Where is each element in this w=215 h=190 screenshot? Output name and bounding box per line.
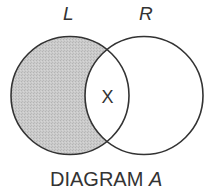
- set-l-label: L: [63, 3, 74, 24]
- caption-main: DIAGRAM: [50, 168, 149, 190]
- venn-diagram: L R X DIAGRAM A: [0, 0, 215, 190]
- caption-italic: A: [148, 168, 162, 190]
- diagram-caption: DIAGRAM A: [50, 168, 162, 190]
- intersection-x-mark: X: [102, 87, 114, 107]
- set-r-label: R: [139, 3, 153, 24]
